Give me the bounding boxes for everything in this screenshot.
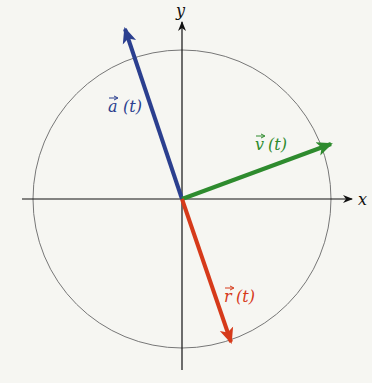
position-arg: (t) <box>236 287 255 306</box>
y-axis-label: y <box>175 1 186 20</box>
position-vector <box>182 199 231 342</box>
acceleration-label: a (t) <box>108 96 142 116</box>
x-axis-label: x <box>358 190 367 209</box>
circular-motion-diagram: x y a (t) v (t) r (t) <box>0 0 372 383</box>
velocity-label: v (t) <box>255 134 287 154</box>
acceleration-symbol: a <box>108 97 118 116</box>
position-symbol: r <box>224 287 233 306</box>
position-label: r (t) <box>224 286 255 306</box>
velocity-arg: (t) <box>268 135 287 154</box>
acceleration-arg: (t) <box>123 97 142 116</box>
velocity-symbol: v <box>255 135 264 154</box>
